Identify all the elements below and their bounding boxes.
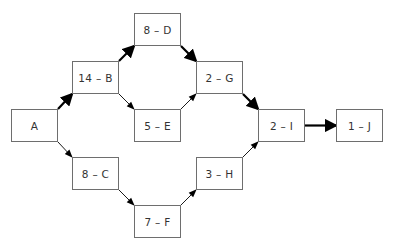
node-i-label: 2 – I <box>270 120 293 132</box>
node-a-label: A <box>31 120 38 132</box>
node-b-label: 14 – B <box>78 72 112 84</box>
edge-a-b-arrow-icon <box>58 94 72 109</box>
node-f: 7 – F <box>134 205 181 238</box>
node-e-label: 5 – E <box>144 120 171 132</box>
edge-b-e-arrow-icon <box>119 94 134 109</box>
node-c: 8 – C <box>72 157 119 190</box>
node-a: A <box>11 109 58 142</box>
edge-h-i-arrow-icon <box>243 142 258 157</box>
edge-f-h-arrow-icon <box>181 190 196 205</box>
edge-a-c-arrow-icon <box>58 142 72 157</box>
node-g: 2 – G <box>196 61 243 94</box>
node-e: 5 – E <box>134 109 181 142</box>
edge-d-g-arrow-icon <box>181 46 196 61</box>
node-h-label: 3 – H <box>205 168 233 180</box>
node-c-label: 8 – C <box>82 168 109 180</box>
edge-b-d-arrow-icon <box>119 46 134 61</box>
node-g-label: 2 – G <box>205 72 233 84</box>
node-d: 8 – D <box>134 13 181 46</box>
node-d-label: 8 – D <box>143 24 171 36</box>
node-j: 1 – J <box>336 109 383 142</box>
node-j-label: 1 – J <box>348 120 371 132</box>
node-i: 2 – I <box>258 109 305 142</box>
node-h: 3 – H <box>196 157 243 190</box>
node-f-label: 7 – F <box>144 216 170 228</box>
edge-g-i-arrow-icon <box>243 94 258 109</box>
network-diagram: A 14 – B 8 – C 8 – D 5 – E 7 – F 2 – G 3… <box>0 0 398 249</box>
edge-c-f-arrow-icon <box>119 190 134 205</box>
node-b: 14 – B <box>72 61 119 94</box>
edge-e-g-arrow-icon <box>181 94 196 109</box>
